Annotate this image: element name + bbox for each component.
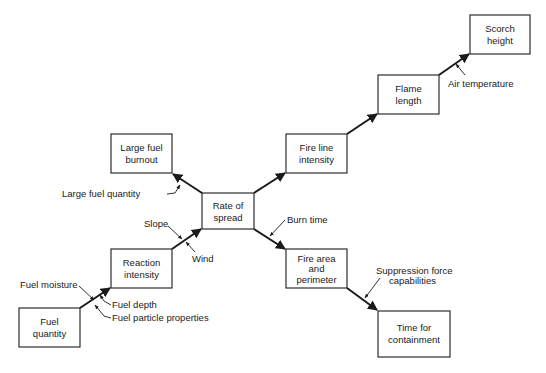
node-label: Time for <box>397 322 431 333</box>
modifier-arrow-air-temperature <box>456 64 465 75</box>
edge-spread-to-fireline <box>254 173 285 193</box>
node-label: length <box>396 95 422 106</box>
modifier-fuel-depth: Fuel depth <box>112 299 157 310</box>
node-label: Large fuel <box>120 142 162 153</box>
modifier-large-fuel-quantity: Large fuel quantity <box>62 188 140 199</box>
edge-spread-to-burnout <box>173 174 202 193</box>
modifier-arrow-fuel-particle <box>95 305 111 318</box>
node-label: intensity <box>124 269 159 280</box>
modifier-arrow-slope <box>168 226 182 239</box>
modifier-suppression-line2: capabilities <box>389 275 436 286</box>
node-label: Fire line <box>300 142 334 153</box>
node-time-for-containment: Time for containment <box>378 311 450 357</box>
modifier-arrow-wind <box>186 242 195 252</box>
modifier-slope: Slope <box>144 218 168 229</box>
node-rate-of-spread: Rate of spread <box>202 193 254 229</box>
node-scorch-height: Scorch height <box>470 15 530 54</box>
node-label: Flame <box>395 83 421 94</box>
modifier-arrow-fuel-moisture <box>79 286 94 300</box>
node-label: containment <box>388 334 440 345</box>
node-fire-area-perimeter: Fire area and perimeter <box>286 249 347 288</box>
node-label: Fuel <box>40 316 58 327</box>
fire-behavior-diagram: Fuel quantity Reaction intensity Large f… <box>0 0 546 373</box>
node-fire-line-intensity: Fire line intensity <box>286 134 347 173</box>
node-large-fuel-burnout: Large fuel burnout <box>111 134 172 173</box>
node-label: burnout <box>125 154 158 165</box>
node-label: Reaction <box>123 257 161 268</box>
modifier-wind: Wind <box>192 253 214 264</box>
node-label: spread <box>213 212 242 223</box>
modifier-burn-time: Burn time <box>287 214 328 225</box>
edge-reaction-to-spread <box>172 229 201 249</box>
modifier-arrow-fuel-depth <box>100 295 111 305</box>
modifier-fuel-particle-properties: Fuel particle properties <box>112 312 209 323</box>
node-reaction-intensity: Reaction intensity <box>111 249 172 288</box>
node-label: Rate of <box>213 200 244 211</box>
edge-spread-to-firearea <box>254 229 285 249</box>
edge-firearea-to-containment <box>347 288 377 310</box>
modifier-arrow-large-fuel-quantity <box>167 185 180 194</box>
node-label: and <box>309 263 325 274</box>
modifier-fuel-moisture: Fuel moisture <box>20 279 78 290</box>
node-label: intensity <box>299 154 334 165</box>
node-fuel-quantity: Fuel quantity <box>19 308 80 347</box>
node-flame-length: Flame length <box>378 75 439 114</box>
node-label: quantity <box>33 328 67 339</box>
edge-fireline-to-flame <box>347 114 377 134</box>
modifier-arrow-burn-time <box>270 220 285 236</box>
modifier-arrow-suppression <box>365 278 380 298</box>
edge-flame-to-scorch <box>439 54 469 75</box>
node-label: Scorch <box>485 23 515 34</box>
modifier-air-temperature: Air temperature <box>448 78 513 89</box>
node-label: height <box>487 35 513 46</box>
node-label: perimeter <box>296 274 336 285</box>
